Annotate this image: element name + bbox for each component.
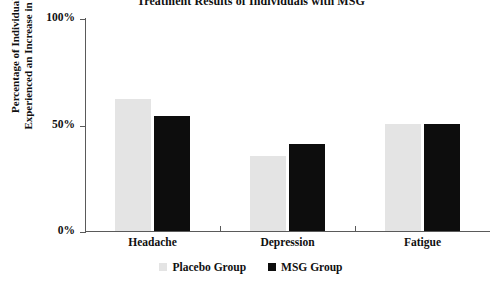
x-axis-separator <box>220 226 221 232</box>
y-axis-title-line-2: Experienced an Increase in Symptom <box>22 0 35 130</box>
category-label-headache: Headache <box>83 236 223 248</box>
category-label-fatigue: Fatigue <box>353 236 493 248</box>
y-tick-label: 50% <box>52 118 75 130</box>
bar-fatigue-placebo-group <box>385 124 421 231</box>
chart-title: Treatment Results of Individuals with MS… <box>0 0 502 9</box>
x-axis-separator <box>355 226 356 232</box>
y-tick-label: 100% <box>46 11 75 23</box>
plot-area: 100%50%0% <box>85 18 490 232</box>
y-tick-100: 100% <box>80 19 86 20</box>
bar-depression-msg-group <box>289 144 325 231</box>
bar-depression-placebo-group <box>250 156 286 231</box>
y-tick-50: 50% <box>80 126 86 127</box>
y-axis-title: Percentage of Individuals who Experience… <box>4 0 40 148</box>
bar-chart: Treatment Results of Individuals with MS… <box>0 0 502 286</box>
chart-legend: Placebo GroupMSG Group <box>0 261 502 273</box>
bar-headache-msg-group <box>154 116 190 231</box>
bar-headache-placebo-group <box>115 99 151 231</box>
x-axis-line <box>85 231 490 232</box>
legend-swatch-icon <box>268 263 276 271</box>
legend-label: Placebo Group <box>172 261 246 273</box>
legend-item-placebo-group[interactable]: Placebo Group <box>159 261 246 273</box>
y-tick-0: 0% <box>80 232 86 233</box>
y-tick-label: 0% <box>58 224 75 236</box>
legend-label: MSG Group <box>281 261 342 273</box>
y-axis-title-line-1: Percentage of Individuals who <box>9 0 22 113</box>
legend-swatch-icon <box>159 263 167 271</box>
legend-item-msg-group[interactable]: MSG Group <box>268 261 342 273</box>
category-label-depression: Depression <box>218 236 358 248</box>
bar-fatigue-msg-group <box>424 124 460 231</box>
